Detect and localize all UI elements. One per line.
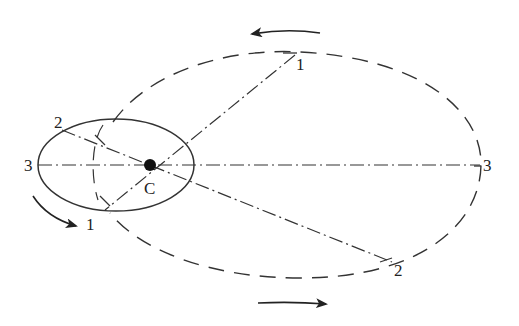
radial-lines <box>38 55 480 262</box>
left-arrow-icon <box>33 196 76 226</box>
center-label: C <box>144 179 155 198</box>
top-arrow-icon <box>252 31 320 34</box>
inner-dashed-arc <box>93 125 103 200</box>
center-point <box>144 159 156 171</box>
radial-line-2 <box>62 130 392 262</box>
outer-label-3: 3 <box>483 156 492 175</box>
radial-line-1 <box>105 55 295 210</box>
inner-label-2: 2 <box>54 113 63 132</box>
orbit-diagram: C 3 2 1 1 3 2 <box>0 0 519 326</box>
inner-label-1: 1 <box>86 215 95 234</box>
outer-label-1: 1 <box>296 55 305 74</box>
diagram-svg: C 3 2 1 1 3 2 <box>0 0 519 326</box>
bottom-arrow-icon <box>258 302 326 304</box>
tick-marks <box>95 53 481 262</box>
outer-label-2: 2 <box>394 261 403 280</box>
inner-label-3: 3 <box>24 156 33 175</box>
